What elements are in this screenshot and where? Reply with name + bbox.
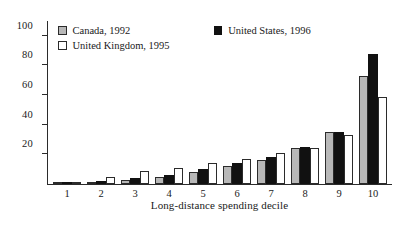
x-axis-tick-label: 10	[368, 188, 379, 199]
x-axis-title: Long-distance spending decile	[47, 199, 392, 211]
x-axis-tick-label: 3	[132, 188, 137, 199]
bar	[257, 160, 266, 184]
bar	[96, 181, 105, 184]
bar	[87, 182, 96, 184]
bar	[106, 177, 115, 184]
bar	[72, 182, 81, 184]
y-axis-tick-label: 40	[22, 108, 33, 119]
x-axis-tick-label: 7	[268, 188, 273, 199]
bar	[276, 153, 285, 184]
bar-group: 10	[359, 21, 387, 184]
bar	[232, 163, 241, 184]
legend-label: Canada, 1992	[73, 25, 131, 36]
legend-entry: United Kingdom, 1995	[58, 40, 170, 51]
bar	[155, 177, 164, 184]
bar	[378, 97, 387, 184]
legend-swatch	[58, 26, 67, 35]
x-axis-tick-label: 4	[166, 188, 171, 199]
y-axis-tick-label: 80	[22, 49, 33, 60]
bar	[359, 76, 368, 184]
chart-legend: Canada, 1992United Kingdom, 1995United S…	[58, 25, 311, 51]
bar	[300, 147, 309, 184]
bar	[174, 168, 183, 184]
bar	[198, 169, 207, 184]
y-axis-tick-label: 60	[22, 79, 33, 90]
bar	[140, 171, 149, 184]
bar-group: 9	[325, 21, 353, 184]
legend-swatch	[58, 41, 67, 50]
bar	[291, 148, 300, 184]
x-axis-tick-label: 9	[336, 188, 341, 199]
legend-swatch	[214, 26, 223, 35]
bar-chart-figure: 20406080100 12345678910 Long-distance sp…	[0, 0, 400, 226]
legend-entry: United States, 1996	[214, 25, 311, 36]
bar	[189, 172, 198, 184]
legend-entry: Canada, 1992	[58, 25, 170, 36]
bar	[325, 132, 334, 184]
bar	[344, 135, 353, 184]
bar	[53, 182, 62, 184]
y-axis-tick-label: 100	[17, 19, 33, 30]
bar	[164, 175, 173, 184]
bar	[130, 178, 139, 184]
legend-label: United Kingdom, 1995	[73, 40, 170, 51]
x-axis-tick-label: 1	[64, 188, 69, 199]
bar	[208, 163, 217, 184]
bar	[242, 159, 251, 184]
bar	[310, 148, 319, 184]
bar	[62, 182, 71, 184]
bar	[334, 132, 343, 184]
bar	[121, 180, 130, 184]
x-axis-tick-label: 2	[98, 188, 103, 199]
y-axis-tick-label: 20	[22, 138, 33, 149]
x-axis-tick-label: 6	[234, 188, 239, 199]
bar	[223, 166, 232, 184]
legend-label: United States, 1996	[228, 25, 311, 36]
bar	[266, 157, 275, 184]
x-axis-tick-label: 5	[200, 188, 205, 199]
bar	[368, 54, 377, 184]
x-axis-tick-label: 8	[302, 188, 307, 199]
